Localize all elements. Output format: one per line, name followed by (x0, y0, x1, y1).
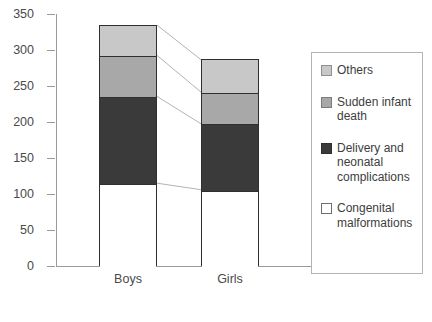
y-tick-label-150: 150 (0, 151, 34, 165)
stacked-bar-chart: 350 300 250 200 150 100 50 0 (0, 0, 432, 322)
segment-boys-congenital (100, 184, 156, 267)
legend-swatch-delivery-neonatal-icon (321, 143, 332, 154)
y-tick-150: 150 (47, 158, 55, 159)
y-tick-label-250: 250 (0, 79, 34, 93)
y-tick-350: 350 (47, 14, 55, 15)
y-tick-100: 100 (47, 194, 55, 195)
segment-boys-sudden-infant-death (100, 56, 156, 97)
chart-legend: Others Sudden infant death Delivery and … (311, 52, 423, 274)
y-tick-200: 200 (47, 122, 55, 123)
bar-girls[interactable] (201, 59, 259, 266)
y-tick-0: 0 (47, 266, 55, 267)
segment-boys-delivery-neonatal (100, 97, 156, 184)
connector-sid-bottom (157, 96, 201, 123)
y-tick-label-350: 350 (0, 7, 34, 21)
legend-label-delivery-neonatal: Delivery and neonatal complications (337, 141, 415, 185)
legend-label-sudden-infant-death: Sudden infant death (337, 95, 415, 124)
y-tick-label-50: 50 (0, 223, 34, 237)
y-tick-label-0: 0 (0, 259, 34, 273)
y-tick-label-100: 100 (0, 187, 34, 201)
legend-swatch-congenital-icon (321, 203, 332, 214)
y-tick-label-200: 200 (0, 115, 34, 129)
y-tick-label-300: 300 (0, 43, 34, 57)
segment-boys-others (100, 26, 156, 56)
connector-top (157, 25, 201, 60)
bar-boys[interactable] (99, 25, 157, 266)
y-tick-50: 50 (47, 230, 55, 231)
segment-girls-congenital (202, 191, 258, 267)
legend-label-congenital: Congenital malformations (337, 201, 415, 230)
y-axis-line (56, 14, 57, 266)
segment-girls-delivery-neonatal (202, 124, 258, 190)
y-tick-300: 300 (47, 50, 55, 51)
legend-item-sudden-infant-death[interactable]: Sudden infant death (321, 95, 415, 124)
plot-area: 350 300 250 200 150 100 50 0 (56, 14, 288, 280)
connector-others-bottom (157, 55, 201, 92)
connector-congenital-top (157, 183, 201, 190)
x-axis-label-girls: Girls (170, 272, 290, 286)
legend-item-delivery-neonatal[interactable]: Delivery and neonatal complications (321, 141, 415, 185)
legend-swatch-others-icon (321, 65, 332, 76)
legend-swatch-sudden-infant-death-icon (321, 97, 332, 108)
y-tick-250: 250 (47, 86, 55, 87)
legend-label-others: Others (337, 63, 373, 78)
segment-girls-sudden-infant-death (202, 93, 258, 125)
legend-item-congenital[interactable]: Congenital malformations (321, 201, 415, 230)
segment-girls-others (202, 60, 258, 92)
legend-item-others[interactable]: Others (321, 63, 415, 78)
